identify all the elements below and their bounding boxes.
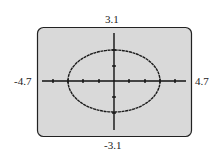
ymin-label: -3.1: [104, 140, 121, 151]
xmax-label: 4.7: [195, 76, 209, 87]
xmin-label: -4.7: [14, 76, 31, 87]
ymax-label: 3.1: [105, 14, 119, 25]
